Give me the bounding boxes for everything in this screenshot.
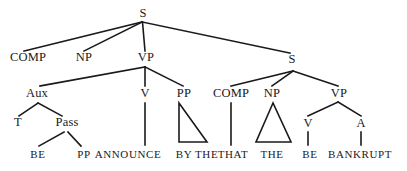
node-aux: Aux (26, 87, 48, 100)
pp-triangle (179, 103, 207, 142)
node-pp-main: PP (177, 87, 191, 100)
node-vp-main: VP (138, 51, 154, 64)
edge-s-to-comp (24, 22, 142, 51)
syntax-tree-figure: S COMP NP VP S Aux V PP COMP NP VP T Pas… (0, 0, 407, 171)
node-v-main: V (140, 87, 149, 100)
terminal-the: THE (260, 149, 283, 160)
terminal-bankrupt: BANKRUPT (328, 149, 392, 160)
terminal-that: THAT (218, 149, 249, 160)
node-vp-embedded: VP (331, 87, 347, 100)
terminal-announce: ANNOUNCE (95, 149, 162, 160)
node-comp-main: COMP (10, 51, 46, 64)
node-np-embedded: NP (264, 87, 280, 100)
terminal-by-the: BY THE (176, 149, 218, 160)
node-comp-embedded: COMP (213, 87, 249, 100)
node-s-embedded: S (288, 53, 295, 66)
node-v-embedded: V (303, 117, 312, 130)
terminal-be-embedded: BE (302, 149, 317, 160)
edge-s-to-s2 (142, 22, 290, 53)
edge-pass-to-pp (68, 132, 81, 146)
node-t: T (14, 116, 22, 129)
terminal-be-pass: BE (30, 149, 45, 160)
edge-pass-to-be (39, 132, 64, 146)
edge-s-to-np (84, 22, 142, 51)
edge-vp2-to-v2 (308, 102, 338, 116)
terminal-pp-pass: PP (77, 149, 90, 160)
edge-vp2-to-a (338, 102, 361, 116)
node-np-main: NP (76, 51, 92, 64)
edge-vp-to-aux (40, 67, 145, 86)
node-pass: Pass (55, 116, 78, 129)
edge-s-to-vp (143, 22, 146, 51)
np-triangle (256, 103, 291, 142)
node-a-embedded: A (356, 117, 365, 130)
edge-vp-to-pp (145, 67, 183, 86)
node-root-s: S (139, 7, 146, 20)
edge-s2-to-vp2 (293, 71, 338, 86)
